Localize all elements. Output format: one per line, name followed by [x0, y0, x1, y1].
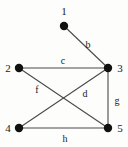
edge-label-d: d [83, 88, 88, 99]
vertex-dot-4 [15, 124, 23, 132]
edge-lines [19, 26, 108, 128]
vertex-label-5: 5 [117, 123, 123, 134]
graph-diagram: 1 2 3 4 5 b c f d g h [0, 0, 128, 147]
vertex-dot-1 [60, 22, 68, 30]
vertex-label-4: 4 [5, 123, 11, 134]
edge-label-g: g [115, 95, 120, 106]
graph-canvas [0, 0, 128, 147]
vertex-dot-3 [104, 64, 112, 72]
edge-label-b: b [86, 39, 91, 50]
edge-label-c: c [61, 55, 65, 66]
vertex-dots [15, 22, 112, 132]
vertex-dot-5 [104, 124, 112, 132]
edge-label-h: h [63, 133, 68, 144]
edge-label-f: f [35, 84, 38, 95]
vertex-dot-2 [15, 64, 23, 72]
vertex-label-1: 1 [61, 6, 67, 17]
vertex-label-2: 2 [5, 63, 11, 74]
vertex-label-3: 3 [117, 63, 123, 74]
